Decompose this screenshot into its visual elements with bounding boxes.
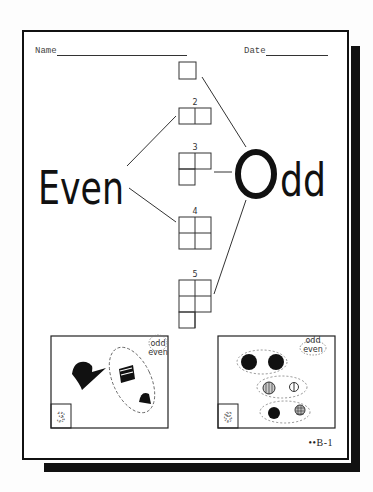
worksheet-page: Name Date: [22, 30, 349, 460]
svg-text:3: 3: [192, 143, 197, 152]
svg-text:6: 6: [224, 409, 233, 425]
picture-box-2: 6 odd even: [218, 336, 335, 428]
svg-text:odd: odd: [305, 336, 320, 345]
svg-text:4: 4: [192, 207, 197, 216]
svg-text:5: 5: [192, 270, 197, 279]
svg-text:3: 3: [57, 409, 66, 425]
page-shadow-right: [351, 46, 360, 472]
svg-text:2: 2: [192, 98, 197, 107]
svg-text:even: even: [303, 345, 323, 354]
svg-text:dd: dd: [280, 153, 326, 207]
worksheet-drawing: 2 3 4 5 Even dd 3 odd even 6: [24, 32, 347, 458]
footer-code: ••B-1: [308, 437, 333, 448]
svg-text:even: even: [148, 348, 168, 357]
picture-box-1: 3 odd even: [51, 335, 168, 428]
grid-1: [179, 62, 196, 79]
svg-text:Even: Even: [38, 161, 124, 215]
page-shadow-bottom: [44, 463, 360, 472]
svg-text:odd: odd: [150, 339, 165, 348]
